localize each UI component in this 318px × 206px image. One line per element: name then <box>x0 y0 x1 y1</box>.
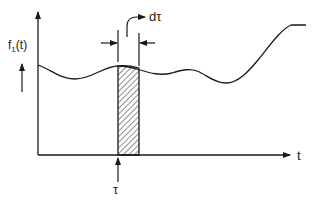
y-axis-label: f1(t) <box>8 38 27 54</box>
x-axis-label: t <box>297 148 301 163</box>
dtau-label: dτ <box>149 9 162 24</box>
tau-label: τ <box>113 182 119 197</box>
hatched-strip <box>118 66 139 155</box>
integral-strip-diagram: dτ τ t f1(t) <box>0 0 318 206</box>
function-curve <box>38 25 306 83</box>
y-axis-label-suffix: (t) <box>16 38 27 52</box>
dtau-hook-arrow <box>127 17 145 37</box>
diagram-canvas: dτ τ t f1(t) <box>0 0 318 206</box>
